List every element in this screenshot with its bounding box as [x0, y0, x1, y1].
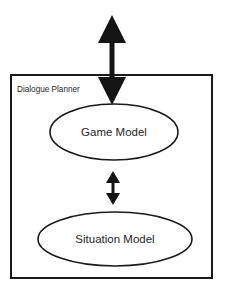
inner-arrow-head-down-icon	[106, 193, 120, 205]
inner-arrow-head-up-icon	[106, 171, 120, 183]
external-arrow-stem	[110, 38, 115, 80]
external-arrow-head-up-icon	[98, 15, 126, 43]
game-model-label: Game Model	[81, 126, 147, 138]
external-arrow-head-down-icon	[98, 77, 126, 105]
diagram-svg: Dialogue Planner Game Model Situation Mo…	[0, 0, 225, 292]
situation-model-label: Situation Model	[75, 233, 154, 245]
diagram-canvas: Dialogue Planner Game Model Situation Mo…	[0, 0, 225, 292]
dialogue-planner-label: Dialogue Planner	[17, 85, 80, 94]
